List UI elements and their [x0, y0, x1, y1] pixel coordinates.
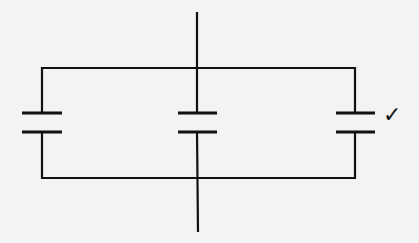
capacitor-center: [178, 113, 217, 132]
center-lower-wire: [197, 132, 198, 232]
capacitor-left: [22, 113, 62, 132]
checkmark-icon: ✓: [383, 104, 401, 126]
left-lower-wire: [42, 132, 355, 178]
circuit-diagram: [0, 0, 419, 243]
left-upper-wire: [42, 68, 355, 113]
capacitor-right: [336, 113, 375, 132]
